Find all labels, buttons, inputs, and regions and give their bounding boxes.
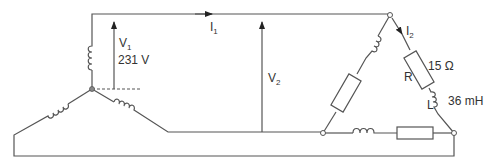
inductor-symbol: L [427,98,434,112]
star-source [14,14,454,156]
resistor-symbol: R [404,70,413,84]
v1-label: V1 [119,36,132,52]
inductor-value: 36 mH [448,94,483,108]
delta-left-inductor-icon [357,36,381,74]
delta-load [323,15,454,139]
circuit-diagram: V1 231 V I1 V2 I2 15 Ω R L 36 mH [0,0,490,168]
i1-label: I1 [210,20,218,36]
delta-left-wire [378,15,390,36]
v2-label: V2 [268,71,281,87]
i2-arrow-icon [392,18,402,34]
source-inductor-left-icon [14,104,454,156]
delta-top-node [388,13,393,18]
delta-left-node [321,131,326,136]
delta-bottom-inductor-icon [353,129,397,134]
delta-bottom-resistor-icon [397,127,433,139]
delta-left-wire-lower [323,112,336,133]
delta-right-node [452,131,457,136]
star-point-node [90,87,95,92]
resistor-value: 15 Ω [428,59,454,73]
source-phase-left-wire [68,89,92,104]
source-phase-right-wire [92,89,114,102]
i2-label: I2 [406,24,414,40]
delta-left-resistor-icon [331,74,361,112]
source-inductor-right-icon [114,99,323,132]
v1-value: 231 V [118,53,149,67]
